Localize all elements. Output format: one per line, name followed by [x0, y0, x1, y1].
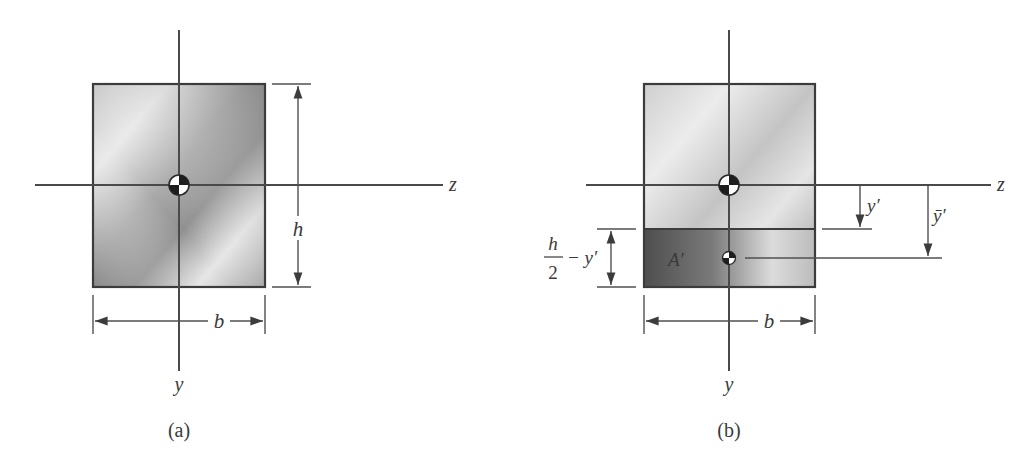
area-label: A′: [666, 249, 685, 270]
h-half-minus-y-prime-dimension: h 2 − y′: [544, 229, 636, 287]
width-label: b: [214, 309, 225, 333]
area-centroid-icon: [723, 252, 736, 265]
figure-b-caption: (b): [717, 419, 740, 442]
width-label: b: [764, 309, 775, 333]
y-bar-prime-label: ȳ′: [931, 205, 946, 226]
y-bar-prime-dimension: ȳ′: [928, 186, 946, 256]
z-axis-label: z: [448, 173, 457, 195]
diagram-canvas: h b z y (a) A′: [0, 0, 1017, 466]
y-axis-label: y: [173, 373, 184, 396]
fraction-denominator: 2: [548, 262, 558, 283]
y-prime-dimension: y′: [822, 186, 880, 229]
centroid-icon: [719, 175, 739, 195]
figure-b: A′ y′ ȳ′ h 2 − y′: [544, 30, 1005, 442]
figure-a-caption: (a): [168, 419, 190, 442]
centroid-icon: [169, 175, 189, 195]
y-axis-label: y: [723, 373, 734, 396]
z-axis-label: z: [996, 173, 1005, 195]
fraction-numerator: h: [548, 233, 558, 254]
height-label: h: [293, 217, 304, 241]
fraction-suffix: − y′: [567, 247, 598, 268]
figure-a: h b z y (a): [35, 30, 457, 442]
y-prime-label: y′: [865, 195, 880, 216]
